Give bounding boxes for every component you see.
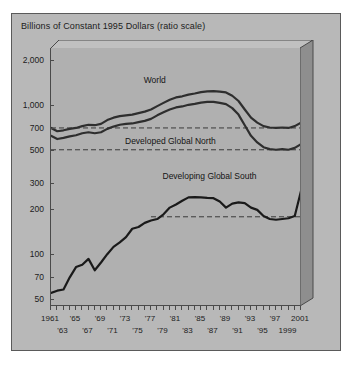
series-label-world: World — [144, 75, 166, 85]
y-axis-tick-label: 700 — [12, 123, 44, 133]
x-axis-tick-label: '65 — [62, 314, 88, 323]
x-axis-tick-mark — [225, 306, 226, 310]
x-axis-tick-label: '63 — [50, 326, 76, 335]
x-axis-tick-mark — [300, 306, 301, 310]
x-axis-tick-mark — [144, 306, 145, 310]
x-axis-tick-mark — [69, 306, 70, 310]
x-axis-tick-mark — [213, 306, 214, 310]
y-axis-tick-mark — [50, 60, 54, 61]
x-axis-tick-mark — [188, 306, 189, 310]
x-axis-tick-mark — [63, 306, 64, 310]
x-axis-tick-mark — [75, 306, 76, 310]
y-axis-tick-label: 70 — [12, 272, 44, 282]
x-axis-tick-mark — [288, 306, 289, 310]
x-axis-tick-mark — [100, 306, 101, 310]
y-axis-tick-label: 50 — [12, 294, 44, 304]
y-axis-tick-mark — [50, 277, 54, 278]
x-axis-tick-label: '75 — [125, 326, 151, 335]
x-axis-tick-mark — [294, 306, 295, 310]
x-axis-tick-mark — [56, 306, 57, 310]
x-axis-tick-label: '87 — [200, 326, 226, 335]
x-axis-tick-mark — [231, 306, 232, 310]
x-axis-tick-label: '73 — [112, 314, 138, 323]
chart-card: Billions of Constant 1995 Dollars (ratio… — [11, 13, 341, 351]
x-axis-tick-label: '77 — [137, 314, 163, 323]
box-right-face — [300, 40, 314, 312]
x-axis-tick-mark — [156, 306, 157, 310]
x-axis-tick-label: 2001 — [287, 314, 313, 323]
y-axis-tick-label: 1,000 — [12, 100, 44, 110]
x-axis-tick-label: '67 — [75, 326, 101, 335]
x-axis-tick-mark — [125, 306, 126, 310]
y-axis-tick-mark — [50, 105, 54, 106]
x-axis-tick-mark — [175, 306, 176, 310]
x-axis-tick-mark — [163, 306, 164, 310]
x-axis-tick-mark — [169, 306, 170, 310]
series-label-developed-global-north: Developed Global North — [125, 136, 216, 146]
x-axis-tick-label: '95 — [250, 326, 276, 335]
y-axis-tick-mark — [50, 209, 54, 210]
x-axis-tick-label: '69 — [87, 314, 113, 323]
x-axis-tick-mark — [181, 306, 182, 310]
x-axis-tick-label: 1999 — [275, 326, 301, 335]
x-axis-tick-label: '91 — [225, 326, 251, 335]
x-axis-tick-label: 1961 — [37, 314, 63, 323]
x-axis-tick-mark — [119, 306, 120, 310]
x-axis-tick-mark — [244, 306, 245, 310]
plot-area-3d: 2,0001,0007005003002001007050 1961'65'69… — [12, 14, 342, 352]
y-axis-tick-mark — [50, 128, 54, 129]
y-axis-tick-mark — [50, 299, 54, 300]
x-axis-tick-mark — [81, 306, 82, 310]
chart-screenshot: Billions of Constant 1995 Dollars (ratio… — [0, 0, 353, 365]
x-axis-tick-mark — [263, 306, 264, 310]
x-axis-tick-mark — [150, 306, 151, 310]
series-line-world — [51, 91, 300, 131]
y-axis-tick-label: 500 — [12, 145, 44, 155]
x-axis-tick-label: '81 — [162, 314, 188, 323]
x-axis-tick-mark — [50, 306, 51, 310]
x-axis-tick-mark — [281, 306, 282, 310]
x-axis-tick-mark — [238, 306, 239, 310]
x-axis-tick-mark — [206, 306, 207, 310]
x-axis-tick-mark — [94, 306, 95, 310]
x-axis-tick-label: '83 — [175, 326, 201, 335]
y-axis-tick-label: 100 — [12, 249, 44, 259]
x-axis-tick-mark — [138, 306, 139, 310]
x-axis-tick-mark — [113, 306, 114, 310]
y-axis-tick-label: 200 — [12, 204, 44, 214]
series-label-developing-global-south: Developing Global South — [163, 171, 257, 181]
x-axis-tick-mark — [219, 306, 220, 310]
x-axis-tick-mark — [194, 306, 195, 310]
x-axis-tick-label: '85 — [187, 314, 213, 323]
series-line-developing-global-south — [51, 191, 300, 293]
y-axis-tick-label: 2,000 — [12, 55, 44, 65]
x-axis-tick-label: '79 — [150, 326, 176, 335]
x-axis-tick-mark — [269, 306, 270, 310]
y-axis-tick-mark — [50, 183, 54, 184]
x-axis-tick-label: '97 — [262, 314, 288, 323]
x-axis-tick-mark — [106, 306, 107, 310]
y-axis-tick-label: 300 — [12, 178, 44, 188]
x-axis-tick-label: '71 — [100, 326, 126, 335]
x-axis-tick-label: '89 — [212, 314, 238, 323]
x-axis-tick-mark — [131, 306, 132, 310]
x-axis-tick-mark — [275, 306, 276, 310]
x-axis-tick-mark — [256, 306, 257, 310]
x-axis-tick-label: '93 — [237, 314, 263, 323]
x-axis-tick-mark — [200, 306, 201, 310]
x-axis-tick-mark — [88, 306, 89, 310]
x-axis-tick-mark — [250, 306, 251, 310]
y-axis-tick-mark — [50, 254, 54, 255]
y-axis-tick-mark — [50, 150, 54, 151]
